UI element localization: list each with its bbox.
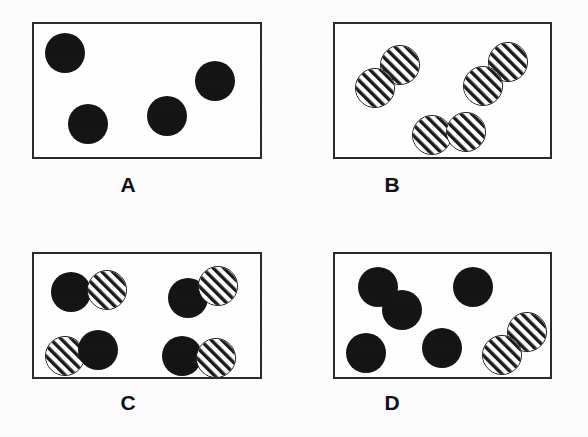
panel-b-label: B [372, 174, 412, 195]
panel-a-box [32, 22, 262, 159]
hatched-circle [463, 66, 503, 106]
solid-circle [453, 267, 493, 307]
solid-circle [51, 272, 91, 312]
panel-a-label: A [108, 174, 148, 195]
hatched-circle [87, 270, 127, 310]
solid-circle [68, 104, 108, 144]
solid-circle [346, 333, 386, 373]
hatched-circle [482, 335, 522, 375]
panel-c-box [32, 252, 262, 379]
panel-d-label: D [372, 392, 412, 413]
solid-circle [78, 330, 118, 370]
solid-circle [422, 328, 462, 368]
panel-b-box [333, 22, 552, 159]
solid-circle [147, 96, 187, 136]
particle-diagram-figure: A B C D [0, 0, 588, 437]
solid-circle [195, 61, 235, 101]
hatched-circle [446, 112, 486, 152]
panel-c-label: C [108, 392, 148, 413]
solid-circle [382, 290, 422, 330]
hatched-circle [355, 68, 395, 108]
panel-d-box [333, 252, 552, 379]
solid-circle [45, 33, 85, 73]
hatched-circle [196, 338, 236, 378]
hatched-circle [198, 266, 238, 306]
